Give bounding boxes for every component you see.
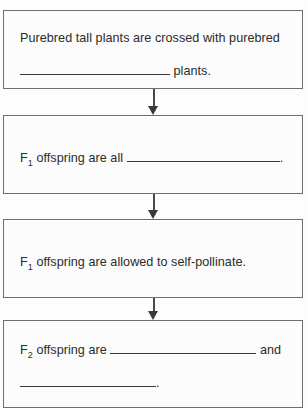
flowchart-step-2: F1 offspring are all .: [3, 115, 303, 194]
fill-in-blank-2[interactable]: [127, 151, 280, 162]
step-3-line-1: F1 offspring are allowed to self-pollina…: [20, 254, 292, 270]
down-arrow-icon: [148, 210, 158, 219]
step-2-period: .: [280, 151, 284, 165]
step-3-generation-label: F: [20, 255, 28, 269]
flowchart-step-4: F2 offspring are and .: [3, 320, 303, 408]
down-arrow-icon: [148, 311, 158, 320]
step-2-line-1: F1 offspring are all .: [20, 150, 292, 166]
connector-arrow-1: [148, 89, 159, 115]
step-1-line-2: plants.: [20, 63, 292, 79]
connector-arrow-3: [148, 298, 159, 320]
step-2-generation-label: F: [20, 151, 28, 165]
arrow-stem: [153, 298, 155, 312]
step-4-line-2: .: [20, 375, 292, 391]
down-arrow-icon: [148, 106, 158, 115]
step-4-period: .: [156, 376, 160, 390]
flowchart-step-1: Purebred tall plants are crossed with pu…: [3, 10, 303, 89]
arrow-stem: [153, 89, 155, 107]
step-1-text: Purebred tall plants are crossed with pu…: [20, 31, 280, 45]
step-4-conjunction: and: [260, 343, 281, 357]
fill-in-blank-4[interactable]: [20, 376, 156, 387]
step-1-suffix-text: plants.: [174, 64, 211, 78]
step-4-text: offspring are: [36, 343, 106, 357]
flowchart-step-3: F1 offspring are allowed to self-pollina…: [3, 219, 303, 298]
arrow-stem: [153, 194, 155, 211]
step-4-line-1: F2 offspring are and: [20, 342, 292, 358]
step-4-generation-label: F: [20, 343, 28, 357]
step-2-text: offspring are all: [36, 151, 123, 165]
step-3-text: offspring are allowed to self-pollinate.: [36, 255, 246, 269]
fill-in-blank-1[interactable]: [20, 64, 170, 75]
fill-in-blank-3[interactable]: [110, 343, 256, 354]
step-1-line-1: Purebred tall plants are crossed with pu…: [20, 30, 292, 46]
connector-arrow-2: [148, 194, 159, 219]
